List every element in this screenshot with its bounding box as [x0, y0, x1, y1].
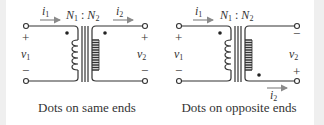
v2-bottom-sign: + [293, 64, 300, 79]
label-v2: v2 [137, 47, 146, 62]
v2-top-sign: + [141, 30, 148, 45]
secondary-dot [103, 31, 107, 35]
terminal-secondary-bottom [143, 79, 148, 84]
label-i2: i2 [116, 4, 123, 19]
terminal-primary-bottom [177, 79, 182, 84]
terminal-primary-top [177, 24, 182, 29]
primary-winding [28, 26, 78, 81]
primary-winding [181, 26, 231, 81]
v1-minus-sign: − [22, 63, 29, 78]
v1-plus-sign: + [22, 30, 29, 45]
terminal-primary-bottom [24, 79, 29, 84]
terminal-secondary-bottom [295, 79, 300, 84]
turns-ratio: N1 : N2 [219, 8, 253, 23]
label-v1: v1 [174, 47, 183, 62]
transformer-core [82, 26, 88, 82]
label-i1: i1 [195, 4, 202, 19]
secondary-dot [257, 73, 261, 77]
transformer-same-ends: i1 N1 : N2 i2 + v1 − + v2 − [21, 4, 148, 84]
v2-top-sign: − [293, 26, 300, 41]
turns-ratio: N1 : N2 [65, 8, 99, 23]
label-v1: v1 [21, 47, 30, 62]
secondary-winding [92, 26, 143, 81]
v1-minus-sign: − [175, 63, 182, 78]
label-i1: i1 [42, 4, 49, 19]
terminal-secondary-top [143, 24, 148, 29]
caption-opposite-ends: Dots on opposite ends [173, 100, 305, 116]
transformer-core [235, 26, 241, 82]
caption-same-ends: Dots on same ends [32, 100, 142, 116]
primary-dot [65, 31, 69, 35]
transformer-opposite-ends: i1 N1 : N2 i2 + v1 − − v2 + [174, 4, 300, 103]
v1-plus-sign: + [175, 30, 182, 45]
secondary-winding [245, 26, 295, 81]
v2-bottom-sign: − [141, 63, 148, 78]
label-v2: v2 [289, 47, 298, 62]
primary-dot [218, 31, 222, 35]
terminal-primary-top [24, 24, 29, 29]
